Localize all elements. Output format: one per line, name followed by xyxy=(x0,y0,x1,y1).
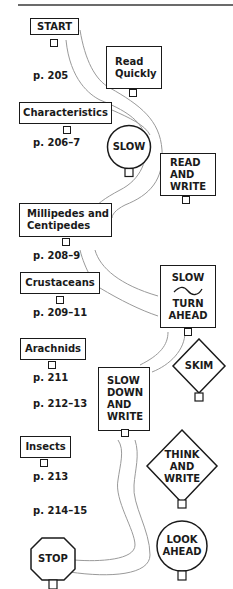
look-line1: LOOK xyxy=(154,534,210,546)
crustaceans-sign: Crustaceans xyxy=(20,272,100,294)
page-ref-209-11: p. 209–11 xyxy=(33,307,87,318)
think-and-write-label: THINK AND WRITE xyxy=(144,449,220,485)
start-sign: START xyxy=(30,18,79,35)
slow-down-line3: AND xyxy=(107,399,131,411)
slow-turn-ahead-sign: SLOW TURN AHEAD xyxy=(160,265,216,328)
characteristics-label: Characteristics xyxy=(23,107,108,119)
think-line2: AND xyxy=(144,461,220,473)
slow-turn-line2: TURN xyxy=(172,298,203,310)
read-quickly-post xyxy=(129,89,137,97)
look-line2: AHEAD xyxy=(154,546,210,558)
read-and-write-line1: READ xyxy=(170,157,201,169)
read-and-write-sign: READ AND WRITE xyxy=(160,153,216,196)
page-ref-214-15: p. 214–15 xyxy=(33,505,87,516)
insects-post xyxy=(40,459,48,467)
millipedes-centipedes-sign: Millipedes and Centipedes xyxy=(19,203,112,237)
start-post xyxy=(50,39,58,47)
crustaceans-post xyxy=(56,296,64,304)
millipedes-line1: Millipedes and xyxy=(27,208,109,220)
stop-label: STOP xyxy=(28,553,78,565)
read-quickly-sign: Read Quickly xyxy=(106,46,162,89)
slow-down-line1: SLOW xyxy=(107,375,140,387)
characteristics-post xyxy=(63,126,71,134)
read-quickly-line1: Read xyxy=(115,56,143,68)
insects-label: Insects xyxy=(25,441,65,453)
arachnids-label: Arachnids xyxy=(25,343,81,355)
characteristics-sign: Characteristics xyxy=(19,102,112,124)
slow-circle-label: SLOW xyxy=(105,141,153,153)
start-label: START xyxy=(37,21,72,33)
page-ref-211: p. 211 xyxy=(33,372,68,383)
arachnids-sign: Arachnids xyxy=(20,338,86,360)
page-ref-213: p. 213 xyxy=(33,471,68,482)
arachnids-post xyxy=(48,361,56,369)
crustaceans-label: Crustaceans xyxy=(25,277,94,289)
page-ref-206-7: p. 206–7 xyxy=(33,137,80,148)
slow-down-line2: DOWN xyxy=(107,387,143,399)
read-and-write-line3: WRITE xyxy=(170,181,206,193)
slow-turn-line3: AHEAD xyxy=(169,310,208,322)
page-ref-212-13: p. 212–13 xyxy=(33,398,87,409)
read-and-write-post xyxy=(182,196,190,204)
millipedes-line2: Centipedes xyxy=(27,220,90,232)
slow-turn-line1: SLOW xyxy=(172,272,205,284)
slow-turn-ahead-post xyxy=(184,328,192,336)
look-ahead-label: LOOK AHEAD xyxy=(154,534,210,558)
read-and-write-line2: AND xyxy=(170,169,194,181)
skim-label: SKIM xyxy=(171,360,227,372)
slow-down-line4: WRITE xyxy=(107,411,143,423)
slow-down-and-write-sign: SLOW DOWN AND WRITE xyxy=(98,367,150,431)
millipedes-post xyxy=(62,238,70,246)
think-line3: WRITE xyxy=(144,473,220,485)
slow-down-and-write-post xyxy=(121,429,129,437)
insects-sign: Insects xyxy=(20,436,71,458)
read-quickly-line2: Quickly xyxy=(115,68,157,80)
curve-ahead-icon xyxy=(172,286,204,296)
page-ref-208-9: p. 208–9 xyxy=(33,250,80,261)
page-ref-205: p. 205 xyxy=(33,70,68,81)
think-line1: THINK xyxy=(144,449,220,461)
